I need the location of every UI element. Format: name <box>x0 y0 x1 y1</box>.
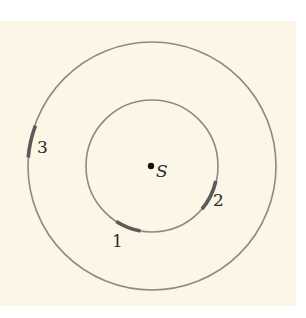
source-label: S <box>156 161 168 181</box>
concentric-circles-diagram: S 1 2 3 <box>0 0 306 318</box>
source-point <box>148 163 154 169</box>
detector-arc-1 <box>116 222 140 232</box>
arc-label-2: 2 <box>213 190 224 210</box>
detector-arc-3 <box>28 126 35 158</box>
arc-label-3: 3 <box>37 137 48 157</box>
arc-label-1: 1 <box>112 231 123 251</box>
